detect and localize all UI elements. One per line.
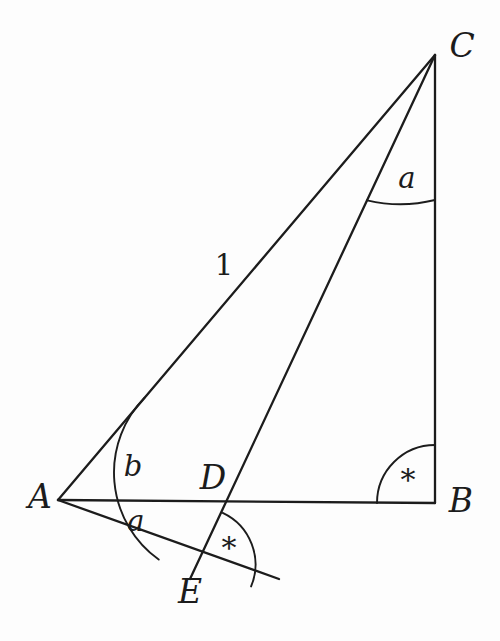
angle-label-A-lower: a	[127, 507, 144, 536]
angle-arc-C	[367, 200, 435, 204]
angle-label-C: a	[398, 164, 415, 193]
vertex-label-C: C	[449, 29, 474, 62]
geometry-figure: A B C D E b a a * * 1	[0, 0, 500, 641]
diagram-canvas	[0, 0, 500, 641]
vertex-label-A: A	[28, 480, 52, 513]
vertex-label-D: D	[200, 461, 226, 494]
segment-AE-extended	[58, 500, 279, 579]
segment-CE	[190, 55, 435, 579]
segment-AB	[58, 500, 435, 503]
angle-label-E-star: *	[222, 533, 237, 563]
segment-AC	[58, 55, 435, 500]
angle-label-A-upper: b	[124, 452, 143, 481]
vertex-label-E: E	[178, 575, 202, 608]
angle-label-B-star: *	[401, 465, 416, 495]
length-label-AC: 1	[215, 251, 233, 280]
vertex-label-B: B	[449, 484, 473, 517]
